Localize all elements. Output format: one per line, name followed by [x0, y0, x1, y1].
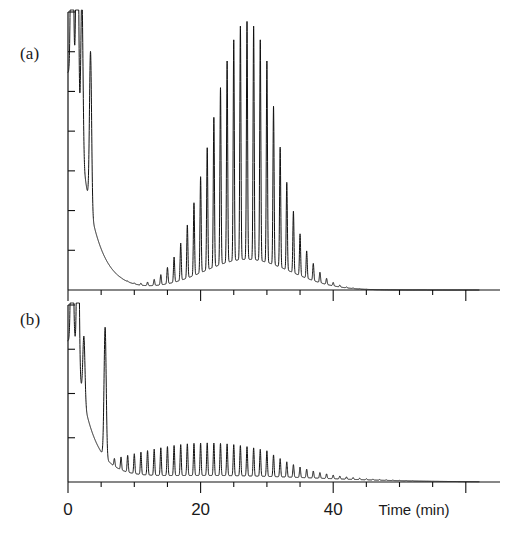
panel-b — [68, 303, 500, 493]
x-tick-label: 0 — [63, 500, 72, 519]
figure-chromatogram-panels: (a) (b) 02040 Time (min) — [0, 0, 508, 538]
x-axis-tick-labels: 02040 — [63, 500, 342, 519]
panel-a-x-ticks — [68, 290, 466, 301]
panel-b-x-ticks — [68, 482, 466, 493]
chromatogram-plot: 02040 Time (min) — [0, 0, 508, 538]
x-tick-label: 20 — [191, 500, 210, 519]
x-tick-label: 40 — [324, 500, 343, 519]
panel-a-trace — [68, 10, 479, 290]
panel-a — [68, 10, 500, 301]
panel-a-y-ticks — [68, 12, 75, 250]
x-axis-title: Time (min) — [378, 501, 449, 518]
panel-b-trace — [68, 303, 479, 482]
